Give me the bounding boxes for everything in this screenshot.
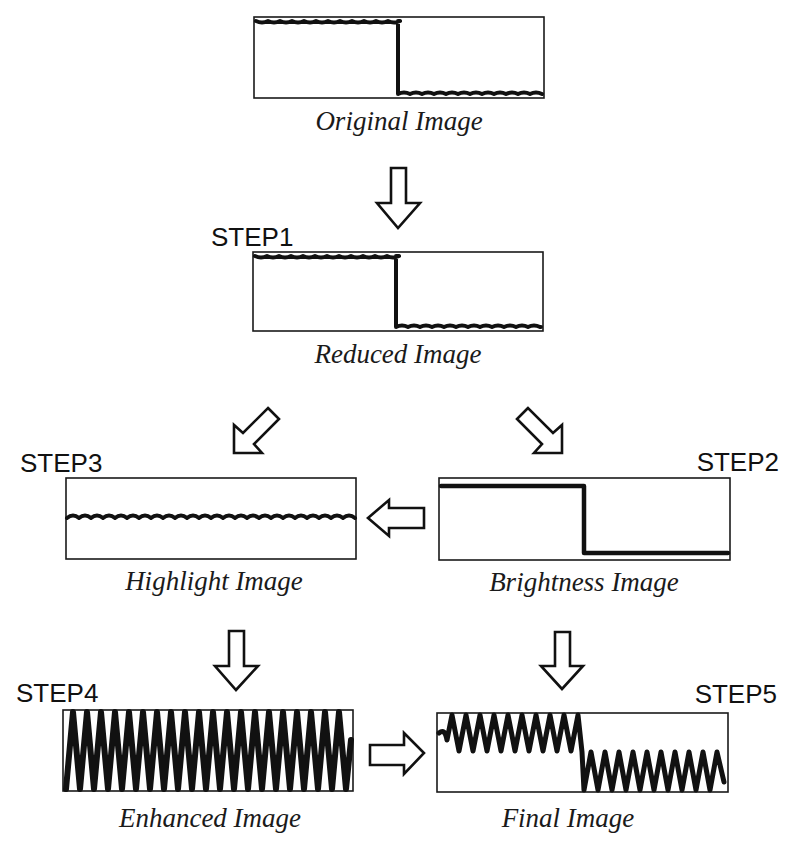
- node-brightness: STEP2 Brightness Image: [439, 447, 779, 597]
- down-left-arrow-icon: [234, 408, 279, 453]
- node-highlight: STEP3 Highlight Image: [20, 448, 356, 596]
- right-arrow-icon: [370, 733, 424, 774]
- node-original: Original Image: [254, 17, 544, 136]
- enhanced-image-caption: Enhanced Image: [118, 803, 301, 833]
- step4-label: STEP4: [16, 678, 98, 708]
- step5-label: STEP5: [695, 679, 777, 709]
- step3-label: STEP3: [20, 448, 102, 478]
- original-image-caption: Original Image: [315, 106, 482, 136]
- image-enhancement-flow-diagram: Original Image STEP1 Reduced Image STEP3…: [0, 0, 795, 855]
- highlight-image-caption: Highlight Image: [124, 566, 303, 596]
- down-arrow-icon: [215, 631, 258, 690]
- node-final: STEP5 Final Image: [437, 679, 777, 833]
- reduced-image-caption: Reduced Image: [313, 339, 481, 369]
- down-arrow-icon: [541, 632, 583, 689]
- step1-label: STEP1: [211, 222, 293, 252]
- highlight-signal-waveform: [67, 516, 355, 519]
- final-image-caption: Final Image: [501, 803, 635, 833]
- node-enhanced: STEP4 Enhanced Image: [16, 678, 353, 833]
- step2-label: STEP2: [697, 447, 779, 477]
- node-reduced: STEP1 Reduced Image: [211, 222, 543, 369]
- brightness-image-caption: Brightness Image: [489, 567, 679, 597]
- down-arrow-icon: [377, 168, 420, 228]
- down-right-arrow-icon: [517, 408, 562, 453]
- left-arrow-icon: [368, 500, 424, 536]
